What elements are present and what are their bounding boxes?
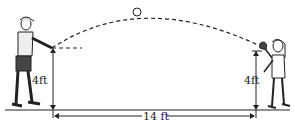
distance-label: 14 ft [143, 110, 170, 123]
glove-icon [260, 42, 267, 50]
diagram-canvas: 4ft 4ft 14 ft [0, 0, 295, 123]
right-height-label: 4ft [244, 74, 260, 87]
ball-trajectory [52, 18, 258, 48]
left-height-label: 4ft [32, 74, 48, 87]
catcher-figure [260, 39, 291, 108]
thrower-figure [12, 17, 52, 106]
ball-icon [133, 8, 141, 16]
